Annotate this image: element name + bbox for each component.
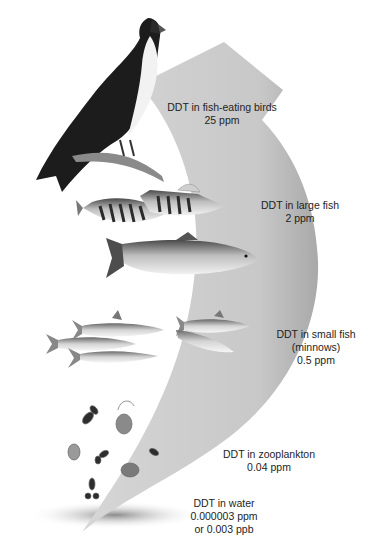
label-small-fish-value: 0.5 ppm (268, 354, 364, 367)
label-large-fish-title: DDT in large fish (250, 199, 350, 212)
biomagnification-diagram: DDT in fish-eating birds 25 ppm DDT in l… (0, 0, 368, 549)
label-birds-value: 25 ppm (150, 114, 294, 127)
label-zooplankton-title: DDT in zooplankton (216, 448, 322, 461)
label-water-value-ppb: or 0.003 ppb (184, 523, 264, 536)
label-large-fish: DDT in large fish 2 ppm (250, 199, 350, 225)
label-zooplankton: DDT in zooplankton 0.04 ppm (216, 448, 322, 474)
label-small-fish-subtitle: (minnows) (268, 341, 364, 354)
label-large-fish-value: 2 ppm (250, 212, 350, 225)
label-water-value-ppm: 0.000003 ppm (184, 510, 264, 523)
label-zooplankton-value: 0.04 ppm (216, 461, 322, 474)
label-small-fish: DDT in small fish (minnows) 0.5 ppm (268, 328, 364, 367)
label-water-title: DDT in water (184, 497, 264, 510)
osprey-illustration (36, 18, 166, 192)
label-fish-eating-birds: DDT in fish-eating birds 25 ppm (150, 101, 294, 127)
label-birds-title: DDT in fish-eating birds (150, 101, 294, 114)
label-small-fish-title: DDT in small fish (268, 328, 364, 341)
label-water: DDT in water 0.000003 ppm or 0.003 ppb (184, 497, 264, 536)
